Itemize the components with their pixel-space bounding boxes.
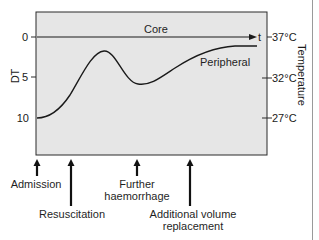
right-tick-32: 32°C [272,72,297,84]
peripheral-label: Peripheral [200,56,250,68]
event-label-admission: Admission [11,178,62,190]
left-tick-0: 0 [4,31,28,43]
temperature-gradient-diagram: DT 0 5 10 t 37°C 32°C 27°C Temperature C… [0,0,319,240]
y-axis-right-label: Temperature [296,44,308,106]
page-edge-divider [312,0,313,240]
time-marker: t [258,31,261,43]
left-tick-5: 5 [4,71,28,83]
arrow-up-icon-further-haemorrhage [134,159,141,176]
arrow-up-icon-resuscitation [68,159,75,206]
arrow-up-icon-admission [34,159,41,176]
event-label-additional-volume: Additional volume replacement [150,208,237,232]
event-label-resuscitation: Resuscitation [39,208,105,220]
right-tick-27: 27°C [272,112,297,124]
left-tick-10: 10 [5,112,29,124]
right-tick-37: 37°C [272,31,297,43]
arrow-up-icon-additional-volume [187,159,194,206]
core-label: Core [144,23,168,35]
left-axis-ticks [31,37,36,77]
event-label-further-haemorrhage: Further haemorrhage [104,178,169,202]
